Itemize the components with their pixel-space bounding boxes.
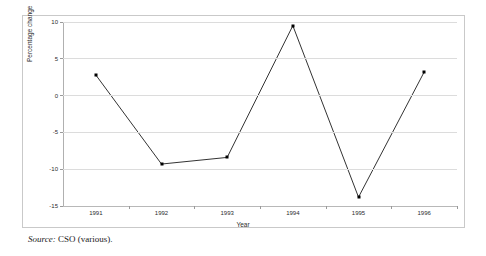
source-note: Source: CSO (various). bbox=[28, 234, 112, 245]
x-tick-label: 1993 bbox=[220, 210, 233, 216]
y-tick-label: 10 bbox=[29, 19, 58, 25]
x-tick-label: 1994 bbox=[286, 210, 299, 216]
data-point-marker bbox=[94, 73, 97, 76]
gridline bbox=[63, 169, 457, 170]
x-axis-title: Year bbox=[0, 221, 486, 229]
x-tick-label: 1996 bbox=[417, 210, 430, 216]
y-tick-mark bbox=[60, 206, 63, 207]
y-tick-mark bbox=[60, 132, 63, 133]
data-series-line bbox=[63, 22, 457, 206]
y-tick-label: 5 bbox=[29, 56, 58, 62]
x-tick-mark bbox=[326, 206, 327, 209]
gridline bbox=[63, 95, 457, 96]
figure-container: Percentage change Year Source: CSO (vari… bbox=[0, 0, 486, 256]
y-tick-mark bbox=[60, 95, 63, 96]
x-tick-mark bbox=[457, 206, 458, 209]
data-point-marker bbox=[423, 71, 426, 74]
data-point-marker bbox=[357, 196, 360, 199]
y-tick-label: -15 bbox=[29, 203, 58, 209]
gridline bbox=[63, 22, 457, 23]
y-tick-label: -10 bbox=[29, 166, 58, 172]
y-tick-label: -5 bbox=[29, 129, 58, 135]
gridline bbox=[63, 132, 457, 133]
x-tick-label: 1992 bbox=[155, 210, 168, 216]
x-tick-label: 1991 bbox=[89, 210, 102, 216]
y-tick-mark bbox=[60, 22, 63, 23]
gridline bbox=[63, 58, 457, 59]
data-point-marker bbox=[226, 156, 229, 159]
source-label: Source: bbox=[28, 234, 56, 244]
data-point-marker bbox=[160, 163, 163, 166]
x-tick-mark bbox=[391, 206, 392, 209]
x-tick-label: 1995 bbox=[352, 210, 365, 216]
data-point-marker bbox=[291, 24, 294, 27]
y-axis-title: Percentage change bbox=[26, 0, 34, 62]
y-tick-label: 0 bbox=[29, 93, 58, 99]
x-tick-mark bbox=[194, 206, 195, 209]
x-tick-mark bbox=[260, 206, 261, 209]
source-text: CSO (various). bbox=[58, 234, 113, 244]
x-tick-mark bbox=[129, 206, 130, 209]
y-tick-mark bbox=[60, 169, 63, 170]
y-tick-mark bbox=[60, 58, 63, 59]
